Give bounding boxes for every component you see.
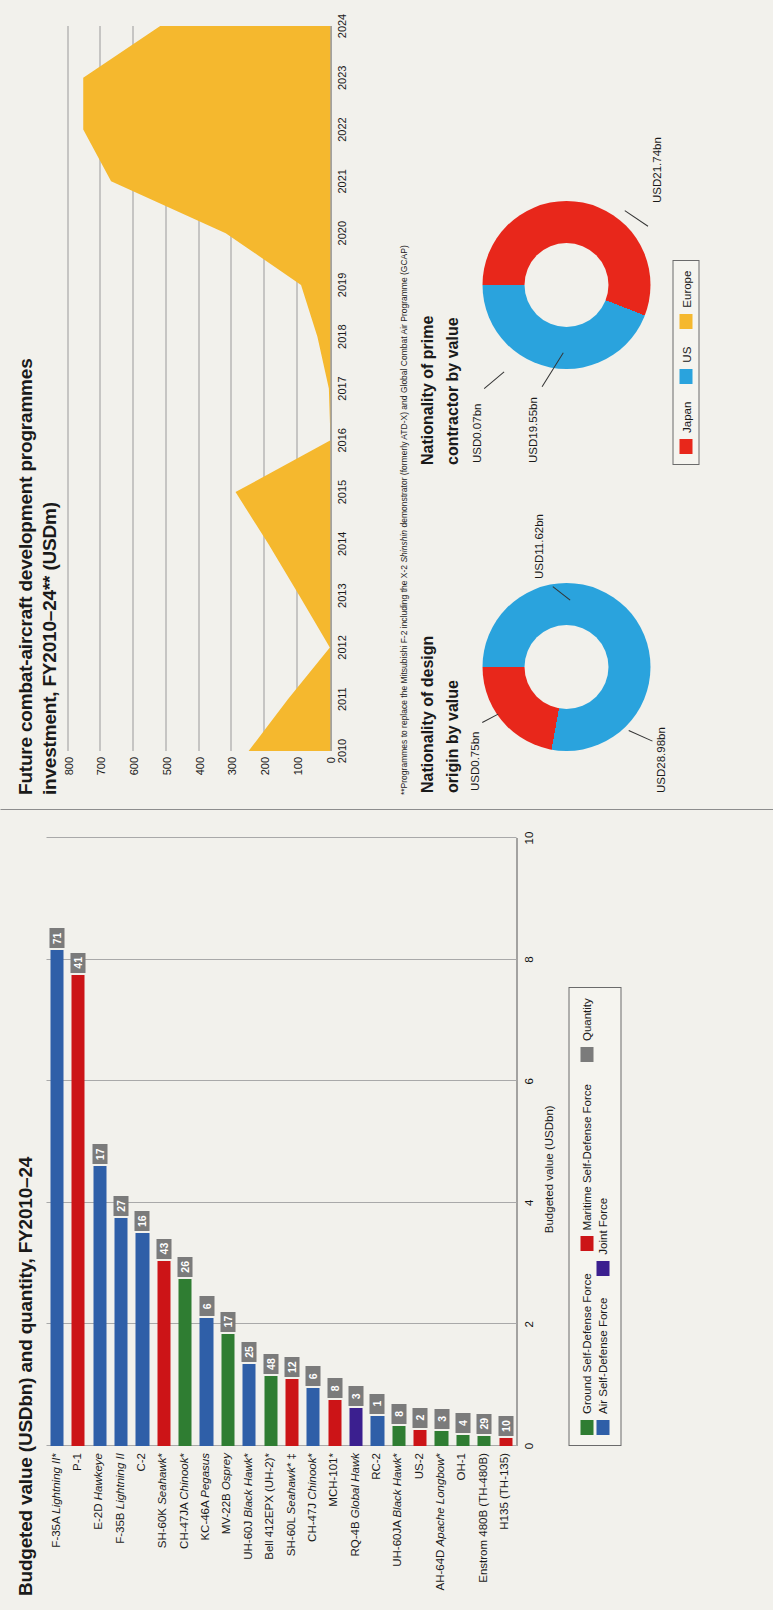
bar: [413, 1430, 426, 1446]
quantity-badge: 25: [241, 1342, 256, 1362]
bar: [50, 950, 63, 1446]
leader-line: [482, 714, 498, 723]
bar-category-label: P-1: [70, 1453, 82, 1471]
legend-label: Europe: [680, 271, 692, 308]
legend-swatch: [596, 1420, 609, 1435]
area-x-tick: 2010: [335, 739, 347, 763]
bar-chart-area: 71F-35A Lightning II*41P-117E-2D Hawkeye…: [46, 820, 606, 1596]
quantity-badge: 17: [220, 1312, 235, 1332]
quantity-badge: 8: [327, 1378, 342, 1398]
legend-row: Air Self-Defense ForceJoint Force: [596, 998, 609, 1435]
donut-legend-item[interactable]: Europe: [679, 271, 692, 329]
legend-swatch: [679, 314, 692, 329]
quantity-badge: 12: [284, 1357, 299, 1377]
bar: [93, 1166, 106, 1446]
area-y-tick: 100: [291, 757, 303, 775]
bar-category-label: Enstrom 480B (TH-480B): [476, 1453, 488, 1583]
bar: [199, 1318, 212, 1446]
area-y-tick: 200: [258, 757, 270, 775]
legend-label: Joint Force: [596, 1198, 608, 1255]
bar: [392, 1426, 405, 1446]
infographic-page: Budgeted value (USDbn) and quantity, FY2…: [0, 0, 773, 1610]
bar-category-label: F-35A Lightning II*: [49, 1453, 61, 1548]
bar: [370, 1416, 383, 1446]
donut-legend-item[interactable]: Japan: [679, 402, 692, 454]
gridline: [46, 959, 516, 960]
legend-item[interactable]: Maritime Self-Defense Force: [580, 1084, 593, 1251]
area-y-tick: 500: [160, 757, 172, 775]
quantity-badge: 48: [263, 1354, 278, 1374]
legend-row: Ground Self-Defense ForceMaritime Self-D…: [580, 998, 593, 1435]
bar: [328, 1400, 341, 1446]
quantity-badge: 43: [156, 1239, 171, 1259]
donut-design-origin-title-line1: Nationality of design: [418, 636, 437, 793]
legend-item[interactable]: Joint Force: [596, 1198, 609, 1276]
area-chart-footnote: **Programmes to replace the Mitsubishi F…: [398, 14, 409, 795]
donut-design-origin: [482, 583, 650, 751]
quantity-badge: 3: [348, 1386, 363, 1406]
area-chart-title-line2: investment, FY2010–24** (USDm): [38, 14, 60, 795]
quantity-badge: 2: [412, 1408, 427, 1428]
bar-category-label: SH-60L Seahawk* ‡: [284, 1453, 296, 1556]
area-x-tick: 2018: [335, 324, 347, 348]
quantity-badge: 10: [498, 1416, 513, 1436]
bar: [71, 975, 84, 1446]
bar-category-label: CH-47JA Chinook*: [177, 1453, 189, 1549]
gridline: [46, 1080, 516, 1081]
bar-category-label: RQ-4B Global Hawk: [348, 1453, 360, 1557]
legend-item[interactable]: Quantity: [580, 998, 593, 1062]
area-y-tick: 800: [62, 757, 74, 775]
bar-category-label: Bell 412EPX (UH-2)*: [262, 1453, 274, 1560]
bar-category-label: UH-60JA Black Hawk*: [390, 1453, 402, 1567]
quantity-badge: 8: [391, 1404, 406, 1424]
donut-prime-contractor-title-line2: contractor by value: [443, 316, 462, 465]
quantity-badge: 1: [369, 1394, 384, 1414]
bar-x-tick: 4: [522, 1200, 534, 1206]
infographic-frame: Budgeted value (USDbn) and quantity, FY2…: [0, 0, 773, 1610]
quantity-badge: 71: [49, 928, 64, 948]
gridline: [46, 837, 516, 838]
leader-line: [628, 730, 652, 741]
donut-prime-contractor-callout-japan: USD21.74bn: [650, 137, 662, 203]
area-plot: 0100200300400500600700800201020112012201…: [68, 26, 331, 751]
legend-label: Maritime Self-Defense Force: [580, 1084, 592, 1230]
legend-swatch: [679, 439, 692, 454]
quantity-badge: 29: [476, 1414, 491, 1434]
donut-design-origin-title-line2: origin by value: [443, 636, 462, 793]
bar: [477, 1436, 490, 1446]
bar-chart-panel: Budgeted value (USDbn) and quantity, FY2…: [0, 810, 773, 1610]
area-x-tick: 2024: [335, 14, 347, 38]
bar: [434, 1431, 447, 1446]
donut-prime-contractor-callout-europe: USD0.07bn: [470, 404, 482, 463]
donut-design-origin-callout-europe: USD0.75bn: [468, 732, 480, 791]
right-panel: Future combat-aircraft development progr…: [0, 0, 773, 810]
leader-line: [483, 372, 504, 389]
quantity-badge: 17: [92, 1144, 107, 1164]
legend-item[interactable]: Ground Self-Defense Force: [580, 1273, 593, 1435]
quantity-badge: 6: [199, 1296, 214, 1316]
bar-category-label: SH-60K Seahawk*: [155, 1453, 167, 1548]
legend-swatch: [596, 1261, 609, 1276]
legend-label: Air Self-Defense Force: [596, 1298, 608, 1414]
area-x-tick: 2014: [335, 532, 347, 556]
donut-legend: JapanUSEurope: [672, 260, 699, 465]
bar-category-label: OH-1: [454, 1453, 466, 1480]
donut-charts-area: Nationality of design origin by value US…: [414, 14, 744, 795]
donut-design-origin-block: Nationality of design origin by value US…: [418, 636, 668, 793]
legend-swatch: [580, 1420, 593, 1435]
bar-category-label: MV-22B Osprey: [219, 1453, 231, 1534]
bar: [306, 1388, 319, 1446]
legend-item[interactable]: Air Self-Defense Force: [596, 1298, 609, 1435]
bar-category-label: CH-47J Chinook*: [305, 1453, 317, 1542]
bar: [135, 1233, 148, 1446]
area-y-tick: 300: [225, 757, 237, 775]
area-x-tick: 2016: [335, 428, 347, 452]
bar: [349, 1408, 362, 1446]
donut-prime-contractor-block: Nationality of prime contractor by value…: [418, 316, 668, 465]
bar: [114, 1218, 127, 1446]
bar-category-label: UH-60J Black Hawk*: [241, 1453, 253, 1560]
donut-design-origin-callout-japan: USD11.62bn: [532, 514, 544, 579]
legend-swatch: [679, 369, 692, 384]
donut-prime-contractor-callout-us: USD19.55bn: [526, 397, 538, 463]
donut-legend-item[interactable]: US: [679, 347, 692, 384]
